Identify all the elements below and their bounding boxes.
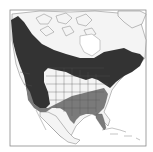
- range-map: [0, 0, 153, 152]
